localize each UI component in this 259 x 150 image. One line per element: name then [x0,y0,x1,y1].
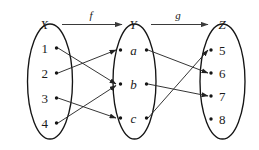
node-dot-7 [209,94,212,97]
node-label-7: 7 [219,89,226,104]
edge-c-to-5 [148,50,208,118]
function-composition-diagram: X Y Z f g 1 2 3 4 a b c 5 6 7 8 [0,0,259,150]
node-label-c: c [131,111,137,126]
node-label-8: 8 [219,112,226,127]
node-label-b: b [130,77,137,92]
node-dot-4 [55,121,58,124]
edge-4-to-b [58,86,116,124]
node-dot-3 [55,96,58,99]
map-label-g: g [175,9,181,21]
node-label-a: a [130,43,137,58]
node-dot-a-in [119,48,122,51]
edge-3-to-c [58,98,116,118]
node-label-3: 3 [42,91,49,106]
diagram-canvas: X Y Z f g 1 2 3 4 a b c 5 6 7 8 [0,0,259,150]
set-ellipse-x [28,24,73,139]
set-label-z: Z [218,17,226,32]
node-dot-a-out [145,48,148,51]
node-label-2: 2 [42,66,49,81]
node-dot-c-out [145,116,148,119]
node-dot-b-out [145,82,148,85]
node-label-6: 6 [219,66,226,81]
map-label-f: f [89,9,94,21]
node-dot-c-in [119,116,122,119]
node-label-4: 4 [42,116,49,131]
node-label-1: 1 [42,41,49,56]
edge-a-to-6 [148,50,208,73]
node-dot-5 [209,48,212,51]
node-label-5: 5 [219,43,226,58]
node-dot-2 [55,71,58,74]
node-dot-1 [55,46,58,49]
node-dot-8 [209,117,212,120]
node-dot-6 [209,71,212,74]
set-label-x: X [39,17,49,32]
edge-b-to-7 [148,84,208,96]
node-dot-b-in [119,82,122,85]
